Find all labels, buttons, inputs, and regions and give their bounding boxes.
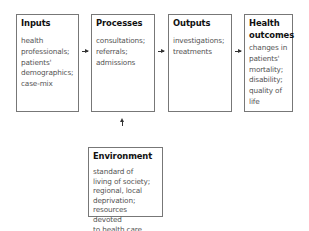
environment-line: standard of bbox=[93, 167, 158, 177]
health-outcomes-line: patients' bbox=[249, 54, 288, 65]
outputs-line: investigations; bbox=[173, 36, 227, 47]
inputs-box: Inputs health professionals; patients' d… bbox=[16, 14, 79, 112]
environment-line: deprivation; bbox=[93, 196, 158, 206]
environment-body: standard of living of society; regional,… bbox=[93, 167, 158, 231]
inputs-line: professionals; bbox=[21, 47, 74, 58]
processes-body: consultations; referrals; admissions bbox=[96, 36, 150, 68]
outputs-body: investigations; treatments bbox=[173, 36, 227, 58]
processes-line: referrals; bbox=[96, 47, 150, 58]
inputs-line: case-mix bbox=[21, 79, 74, 90]
arrow-outputs-to-health-outcomes bbox=[235, 51, 241, 52]
inputs-line: health bbox=[21, 36, 74, 47]
health-outcomes-line: life bbox=[249, 97, 288, 108]
arrow-inputs-to-processes bbox=[82, 51, 88, 52]
arrow-environment-to-processes bbox=[122, 120, 123, 126]
processes-title: Processes bbox=[96, 18, 150, 28]
health-outcomes-title-line: Health bbox=[249, 18, 288, 28]
environment-line: living of society; bbox=[93, 177, 158, 187]
outputs-line: treatments bbox=[173, 47, 227, 58]
inputs-title: Inputs bbox=[21, 18, 74, 28]
environment-line: to health care bbox=[93, 225, 158, 231]
environment-line: regional, local bbox=[93, 186, 158, 196]
arrow-processes-to-outputs bbox=[158, 51, 164, 52]
inputs-body: health professionals; patients' demograp… bbox=[21, 36, 74, 90]
processes-line: admissions bbox=[96, 58, 150, 69]
outputs-box: Outputs investigations; treatments bbox=[168, 14, 232, 112]
health-outcomes-box: Health outcomes changes in patients' mor… bbox=[244, 14, 293, 112]
inputs-line: patients' bbox=[21, 58, 74, 69]
outputs-title: Outputs bbox=[173, 18, 227, 28]
inputs-line: demographics; bbox=[21, 68, 74, 79]
health-outcomes-line: disability; bbox=[249, 75, 288, 86]
processes-box: Processes consultations; referrals; admi… bbox=[91, 14, 155, 112]
health-outcomes-title: Health outcomes bbox=[249, 18, 288, 40]
processes-line: consultations; bbox=[96, 36, 150, 47]
environment-title: Environment bbox=[93, 151, 158, 161]
health-outcomes-title-line: outcomes bbox=[249, 30, 288, 40]
health-outcomes-line: mortality; bbox=[249, 65, 288, 76]
health-outcomes-line: changes in bbox=[249, 43, 288, 54]
health-outcomes-line: quality of bbox=[249, 86, 288, 97]
environment-line: resources devoted bbox=[93, 205, 158, 224]
environment-box: Environment standard of living of societ… bbox=[88, 147, 163, 217]
health-outcomes-body: changes in patients' mortality; disabili… bbox=[249, 43, 288, 108]
